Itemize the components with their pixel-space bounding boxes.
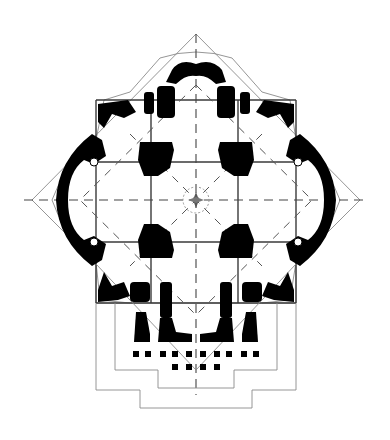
floor-plan-drawing	[0, 0, 390, 440]
floor-plan-figure: Architectural floor plan	[0, 0, 390, 440]
